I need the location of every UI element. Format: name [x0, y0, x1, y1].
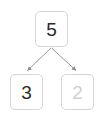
edge-root-to-right: [52, 48, 77, 71]
number-bond-diagram: 5 3 2: [0, 0, 103, 120]
node-right-child-value: 2: [72, 83, 83, 102]
node-root-value: 5: [46, 20, 57, 39]
node-right-child[interactable]: 2: [61, 74, 94, 110]
node-left-child[interactable]: 3: [10, 74, 43, 110]
node-root[interactable]: 5: [35, 11, 68, 47]
edge-root-to-left: [28, 48, 52, 71]
node-left-child-value: 3: [21, 83, 32, 102]
